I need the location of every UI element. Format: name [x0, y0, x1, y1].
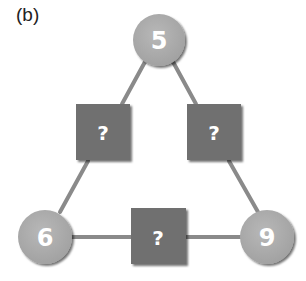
node-top-circle: 5	[133, 14, 185, 66]
node-bottom-left-value: 6	[37, 224, 54, 252]
node-bottom-right-value: 9	[259, 224, 276, 252]
unknown-left-value: ?	[97, 121, 109, 145]
edge-right-bottom	[229, 161, 258, 212]
unknown-left-square: ?	[76, 104, 130, 160]
unknown-bottom-square: ?	[131, 208, 186, 264]
node-top-value: 5	[151, 27, 168, 55]
triangle-puzzle-diagram: 5 ? ? ? 6 9	[0, 0, 306, 281]
node-bottom-right-circle: 9	[240, 210, 294, 264]
edge-top-left	[122, 60, 146, 104]
node-bottom-left-circle: 6	[18, 210, 72, 264]
unknown-right-value: ?	[208, 121, 220, 145]
unknown-right-square: ?	[187, 104, 241, 160]
unknown-bottom-value: ?	[152, 226, 164, 250]
edge-top-right	[172, 60, 196, 104]
edge-left-bottom	[60, 161, 88, 212]
